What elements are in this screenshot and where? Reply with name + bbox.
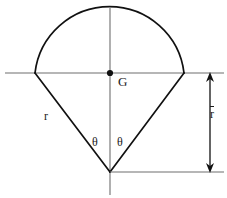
centroidal-distance-label: r <box>210 108 214 120</box>
geometry-figure: G r θ θ r <box>0 0 227 198</box>
centroid-label: G <box>118 75 127 88</box>
radius-label: r <box>44 110 48 122</box>
angle-label-left: θ <box>92 136 98 148</box>
angle-label-right: θ <box>117 136 123 148</box>
centroid-dot <box>107 70 113 76</box>
diagram-canvas <box>0 0 227 198</box>
